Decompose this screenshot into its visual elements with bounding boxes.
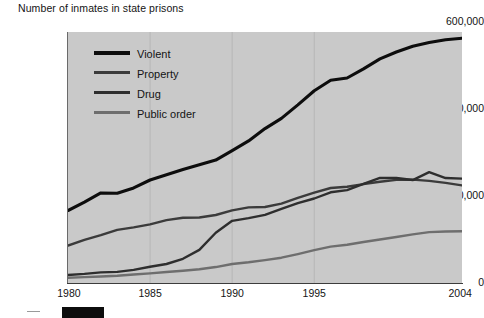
legend-label: Property [137, 68, 179, 80]
legend-swatch-icon [94, 51, 130, 55]
legend-item-public-order[interactable]: Public order [94, 104, 196, 124]
x-axis-tick-1985: 1985 [138, 287, 161, 299]
y-axis-line [67, 32, 68, 284]
footer-marker-bar [62, 307, 104, 318]
legend-swatch-icon [94, 71, 130, 74]
legend-swatch-icon [94, 111, 130, 114]
x-axis-line [67, 283, 463, 284]
y-axis-tick-600000: 600,000 [422, 15, 484, 27]
legend-label: Drug [137, 88, 161, 100]
x-axis-tick-1980: 1980 [57, 287, 80, 299]
x-axis-tick-1995: 1995 [303, 287, 326, 299]
legend-label: Violent [137, 48, 170, 60]
legend-label: Public order [137, 108, 196, 120]
chart-title: Number of inmates in state prisons [18, 2, 184, 14]
legend-item-property[interactable]: Property [94, 64, 196, 84]
chart-legend: ViolentPropertyDrugPublic order [94, 44, 196, 124]
legend-item-drug[interactable]: Drug [94, 84, 196, 104]
legend-item-violent[interactable]: Violent [94, 44, 196, 64]
x-axis-tick-2004: 2004 [448, 287, 471, 299]
legend-swatch-icon [94, 91, 130, 94]
x-axis-tick-1990: 1990 [220, 287, 243, 299]
footer-tick-mark [27, 311, 40, 312]
